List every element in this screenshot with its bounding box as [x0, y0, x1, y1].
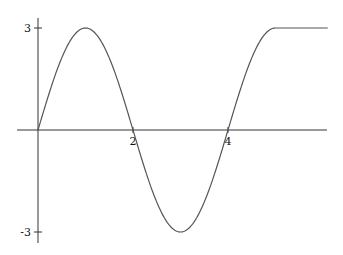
chart: 243-3 [0, 0, 343, 255]
axes [17, 18, 327, 243]
y-tick-label: 3 [24, 22, 31, 35]
y-tick-label: -3 [20, 226, 31, 239]
